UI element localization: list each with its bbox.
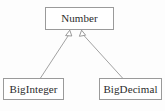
hollow-triangle-arrowhead-biginteger [66,30,72,36]
class-name-number: Number [58,13,101,24]
class-box-bigdecimal[interactable]: BigDecimal [99,78,162,100]
generalization-line-bigdecimal [83,35,123,79]
edge-biginteger-extends-number [41,30,72,78]
class-name-biginteger: BigInteger [6,84,60,95]
edge-bigdecimal-extends-number [79,30,122,78]
class-name-bigdecimal: BigDecimal [100,84,160,95]
generalization-line-biginteger [41,35,70,79]
class-box-number[interactable]: Number [45,7,114,30]
hollow-triangle-arrowhead-bigdecimal [79,30,85,36]
uml-class-diagram: Number BigInteger BigDecimal [0,0,165,111]
class-box-biginteger[interactable]: BigInteger [3,78,64,100]
